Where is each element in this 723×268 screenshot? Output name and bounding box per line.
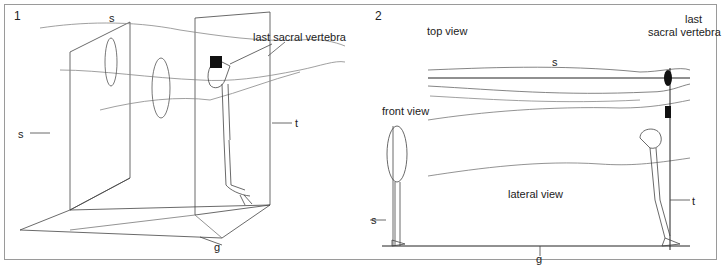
label-last: last — [685, 13, 702, 25]
label-s-top-2: s — [552, 56, 558, 68]
label-t-1: t — [295, 117, 298, 129]
label-s-left-1: s — [18, 128, 24, 140]
plane-s-1 — [70, 22, 130, 210]
label-lateral-view: lateral view — [508, 188, 563, 200]
panel-2-number: 2 — [375, 10, 382, 22]
label-top-view: top view — [427, 25, 467, 37]
label-sacral-vertebra: sacral vertebra — [648, 26, 721, 38]
label-front-view: front view — [382, 105, 429, 117]
label-last-sacral-vertebra-1: last sacral vertebra — [253, 31, 346, 43]
panel-1-number: 1 — [14, 10, 21, 22]
label-g-1: g — [214, 241, 220, 253]
label-t-2: t — [692, 195, 695, 207]
diagram-drawing — [0, 0, 723, 268]
label-s-left-2: s — [371, 214, 377, 226]
label-g-2: g — [536, 253, 542, 265]
label-s-top-1: s — [109, 12, 115, 24]
